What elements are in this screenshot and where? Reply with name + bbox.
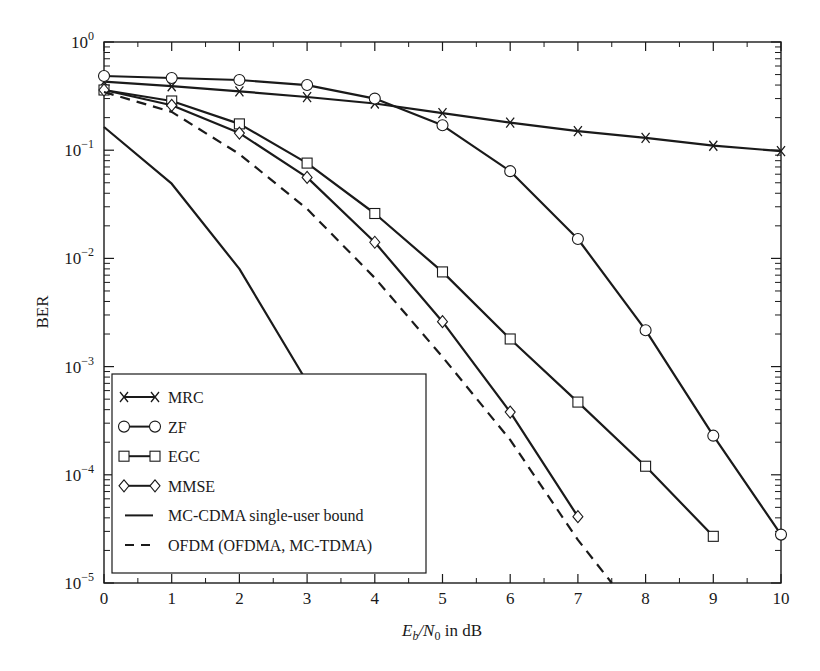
- square-marker-icon: [438, 267, 448, 277]
- square-marker-icon: [150, 451, 160, 461]
- x-tick-label: 9: [709, 589, 718, 608]
- series-line: [104, 82, 781, 151]
- circle-marker-icon: [302, 80, 313, 91]
- series-mrc: [100, 77, 785, 156]
- square-marker-icon: [119, 451, 129, 461]
- y-tick-label: 10−4: [64, 462, 94, 485]
- circle-marker-icon: [640, 325, 651, 336]
- legend-label: ZF: [168, 419, 187, 436]
- circle-marker-icon: [572, 234, 583, 245]
- y-tick-label: 10−5: [64, 570, 94, 593]
- square-marker-icon: [370, 208, 380, 218]
- x-axis-title: Eb/N0 in dB: [401, 621, 482, 643]
- x-tick-label: 10: [773, 589, 790, 608]
- ber-chart: 012345678910 10010−110−210−310−410−5 MRC…: [0, 0, 820, 671]
- square-marker-icon: [302, 158, 312, 168]
- x-tick-label: 1: [167, 589, 176, 608]
- series-line: [104, 127, 307, 382]
- circle-marker-icon: [150, 421, 161, 432]
- square-marker-icon: [573, 397, 583, 407]
- y-tick-label: 10−3: [64, 354, 94, 377]
- legend-label: MMSE: [168, 478, 215, 495]
- circle-marker-icon: [776, 529, 787, 540]
- circle-marker-icon: [505, 166, 516, 177]
- legend-label: MRC: [168, 389, 204, 406]
- square-marker-icon: [505, 334, 515, 344]
- circle-marker-icon: [437, 120, 448, 131]
- circle-marker-icon: [166, 72, 177, 83]
- x-tick-label: 8: [641, 589, 650, 608]
- x-axis-title-e: E: [401, 621, 413, 640]
- circle-marker-icon: [708, 430, 719, 441]
- y-tick-label: 10−1: [64, 137, 94, 160]
- x-tick-label: 2: [235, 589, 244, 608]
- x-tick-label: 4: [371, 589, 380, 608]
- x-axis-title-n: /N: [417, 621, 436, 640]
- legend: MRCZFEGCMMSEMC-CDMA single-user boundOFD…: [112, 374, 426, 573]
- circle-marker-icon: [234, 75, 245, 86]
- legend-label: EGC: [168, 448, 200, 465]
- legend-label: OFDM (OFDMA, MC-TDMA): [168, 537, 372, 555]
- y-tick-label: 100: [71, 29, 94, 52]
- y-axis-title: BER: [33, 295, 52, 329]
- legend-label: MC-CDMA single-user bound: [168, 507, 364, 525]
- circle-marker-icon: [99, 71, 110, 82]
- y-tick-label: 10−2: [64, 245, 94, 268]
- circle-marker-icon: [369, 93, 380, 104]
- x-tick-label: 6: [506, 589, 515, 608]
- circle-marker-icon: [119, 421, 130, 432]
- square-marker-icon: [708, 531, 718, 541]
- x-tick-label: 3: [303, 589, 312, 608]
- x-tick-label: 5: [438, 589, 447, 608]
- x-axis-title-rest: in dB: [440, 621, 482, 640]
- x-tick-label: 0: [100, 589, 109, 608]
- series-mc-cdma-single-user-bound: [104, 127, 307, 382]
- x-tick-label: 7: [574, 589, 583, 608]
- square-marker-icon: [641, 461, 651, 471]
